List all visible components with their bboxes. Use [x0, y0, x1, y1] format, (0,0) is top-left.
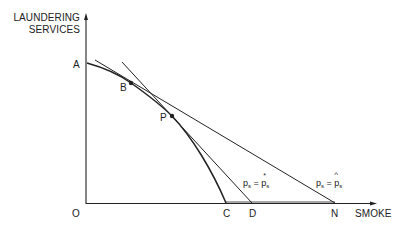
x-axis-arrow-icon [370, 202, 377, 206]
hat-mark-icon: ^ [334, 171, 338, 179]
point-p-marker [170, 114, 174, 118]
price-star-eq: = [254, 178, 259, 188]
price-star-rhs: p [261, 178, 266, 188]
price-hat-rhs-sub: s [339, 183, 342, 189]
x-axis-label: SMOKE [355, 209, 392, 219]
y-axis-label: LAUNDERING SERVICES [8, 13, 80, 35]
price-label-hat: ps = p^s [316, 179, 342, 189]
price-hat-rhs: p [334, 178, 339, 188]
point-b-marker [129, 81, 133, 85]
price-star-rhs-sub: s [266, 183, 269, 189]
y-axis-label-line1: LAUNDERING [8, 13, 80, 23]
price-line-star [122, 62, 252, 203]
point-b-label: B [120, 83, 127, 93]
price-hat-eq: = [327, 178, 332, 188]
price-star-lhs-sub: s [248, 183, 251, 189]
point-c-label: C [223, 209, 230, 219]
point-a-label: A [73, 60, 80, 70]
point-n-label: N [331, 209, 338, 219]
y-axis-arrow-icon [84, 13, 88, 20]
y-axis-label-line2: SERVICES [8, 25, 80, 35]
price-hat-lhs-sub: s [321, 183, 324, 189]
star-mark-icon: * [263, 172, 266, 179]
point-p-label: P [160, 113, 167, 123]
price-label-star: ps = p*s [243, 179, 269, 189]
point-d-label: D [249, 209, 256, 219]
transformation-curve [87, 63, 226, 203]
origin-label: O [72, 209, 80, 219]
